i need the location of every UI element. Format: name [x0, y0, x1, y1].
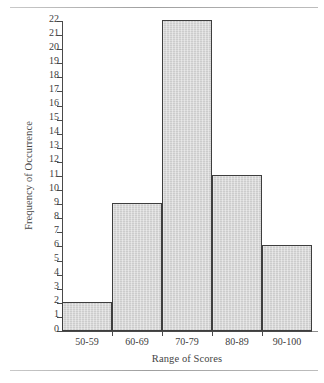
- bar-series: [62, 21, 312, 331]
- y-axis-tick-label: 7: [37, 225, 59, 235]
- histogram-figure: Frequency of Occurrence 0123456789101112…: [0, 0, 324, 383]
- histogram-bar: [162, 20, 212, 331]
- y-axis-tick-label: 4: [37, 267, 59, 277]
- y-axis-tick-label: 2: [37, 295, 59, 305]
- page-rule-bottom: [10, 370, 318, 371]
- x-axis-tick-label: 60-69: [112, 336, 162, 347]
- y-axis-tick-label: 20: [37, 42, 59, 52]
- x-axis-tick-label: 90-100: [262, 336, 312, 347]
- histogram-bar: [262, 245, 312, 331]
- y-axis-tick-label: 18: [37, 70, 59, 80]
- y-axis-tick-label: 11: [37, 169, 59, 179]
- y-axis-tick-label: 8: [37, 211, 59, 221]
- y-axis-tick-label: 1: [37, 309, 59, 319]
- x-axis-tick-label: 70-79: [162, 336, 212, 347]
- x-axis-tick-label: 80-89: [212, 336, 262, 347]
- y-axis-tick-label: 17: [37, 84, 59, 94]
- y-axis-tick-label: 16: [37, 98, 59, 108]
- histogram-bar: [112, 203, 162, 331]
- y-axis-tick-label: 9: [37, 197, 59, 207]
- histogram-bar: [62, 302, 112, 331]
- y-axis-title: Frequency of Occurrence: [23, 76, 34, 276]
- x-axis-title: Range of Scores: [62, 353, 312, 364]
- x-axis-line: [62, 331, 312, 332]
- y-axis-tick-label: 6: [37, 239, 59, 249]
- histogram-bar: [212, 175, 262, 331]
- y-axis-tick-label: 10: [37, 183, 59, 193]
- y-axis-tick-label: 21: [37, 28, 59, 38]
- y-axis-tick-label: 0: [37, 324, 59, 334]
- y-axis-tick-label: 12: [37, 154, 59, 164]
- y-axis-tick-label: 5: [37, 253, 59, 263]
- x-axis-tick-labels: 50-5960-6970-7980-8990-100: [62, 336, 312, 350]
- y-axis-tick-label: 3: [37, 281, 59, 291]
- y-axis-tick-label: 15: [37, 112, 59, 122]
- plot-area: 012345678910111213141516171819202122: [62, 21, 312, 331]
- y-axis-tick-label: 13: [37, 140, 59, 150]
- y-axis-tick-label: 22: [37, 14, 59, 24]
- x-axis-tick-label: 50-59: [62, 336, 112, 347]
- y-axis-tick-label: 19: [37, 56, 59, 66]
- x-axis-line-extension: [312, 331, 318, 332]
- y-axis-tick-label: 14: [37, 126, 59, 136]
